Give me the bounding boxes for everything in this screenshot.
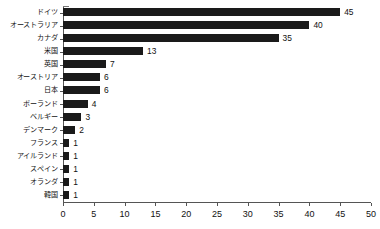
bar: [63, 34, 279, 42]
bar-chart: ドイツオーストラリアカナダ米国英国オーストリア日本ポーランドベルギーデンマークフ…: [0, 0, 380, 229]
category-label: スペイン: [30, 164, 58, 175]
category-label: ベルギー: [30, 112, 58, 123]
bar: [63, 152, 69, 160]
x-axis-tick: [371, 203, 372, 206]
bar-value-label: 1: [73, 177, 78, 188]
category-label: カナダ: [37, 33, 58, 44]
category-label: オーストリア: [17, 72, 58, 83]
category-label: デンマーク: [23, 125, 58, 136]
bar-row: 7: [63, 59, 371, 70]
bar-row: 1: [63, 151, 371, 162]
x-axis-tick-label: 50: [356, 208, 380, 220]
x-axis-tick-label: 5: [79, 208, 109, 220]
bar-value-label: 1: [73, 138, 78, 149]
bar-row: 13: [63, 46, 371, 57]
bar-value-label: 3: [85, 112, 90, 123]
bar-value-label: 1: [73, 190, 78, 201]
category-label: 英国: [44, 59, 58, 70]
bar-row: 1: [63, 164, 371, 175]
bar-row: 1: [63, 190, 371, 201]
bar-value-label: 1: [73, 164, 78, 175]
bar-row: 45: [63, 7, 371, 18]
bar: [63, 47, 143, 55]
bar: [63, 165, 69, 173]
x-axis-tick-label: 20: [171, 208, 201, 220]
bar-row: 6: [63, 85, 371, 96]
x-axis-tick: [155, 203, 156, 206]
bar-row: 40: [63, 20, 371, 31]
category-label: アイルランド: [17, 151, 58, 162]
bar-row: 3: [63, 112, 371, 123]
bar-row: 6: [63, 72, 371, 83]
x-axis-tick: [248, 203, 249, 206]
bar-value-label: 35: [283, 33, 292, 44]
category-label: 韓国: [44, 190, 58, 201]
x-axis-tick: [63, 203, 64, 206]
plot-area: 4540351376643211111: [63, 6, 371, 202]
category-label: オーストラリア: [10, 20, 58, 31]
bar: [63, 139, 69, 147]
category-label: ドイツ: [37, 7, 58, 18]
x-axis-tick-label: 25: [202, 208, 232, 220]
bar-row: 1: [63, 138, 371, 149]
bar: [63, 73, 100, 81]
x-axis-tick-label: 40: [294, 208, 324, 220]
bar-row: 35: [63, 33, 371, 44]
x-axis-tick-label: 30: [233, 208, 263, 220]
bar-value-label: 6: [104, 85, 109, 96]
x-axis-tick-label: 45: [325, 208, 355, 220]
bar: [63, 60, 106, 68]
category-label: 日本: [44, 85, 58, 96]
x-axis-tick-label: 0: [48, 208, 78, 220]
bar: [63, 86, 100, 94]
x-axis-tick-label: 15: [140, 208, 170, 220]
x-axis-tick: [125, 203, 126, 206]
bar-row: 2: [63, 125, 371, 136]
x-axis-tick: [309, 203, 310, 206]
x-axis-tick: [94, 203, 95, 206]
bar: [63, 100, 88, 108]
category-label: 米国: [44, 46, 58, 57]
bar-value-label: 13: [147, 46, 156, 57]
bar: [63, 113, 81, 121]
bar-value-label: 4: [92, 99, 97, 110]
category-axis-labels: ドイツオーストラリアカナダ米国英国オーストリア日本ポーランドベルギーデンマークフ…: [0, 6, 60, 202]
bar-value-label: 40: [313, 20, 322, 31]
bar: [63, 191, 69, 199]
x-axis-tick-label: 35: [264, 208, 294, 220]
bar-value-label: 45: [344, 7, 353, 18]
bar: [63, 178, 69, 186]
x-axis-tick: [217, 203, 218, 206]
bar-value-label: 1: [73, 151, 78, 162]
x-axis-tick: [340, 203, 341, 206]
bar-value-label: 6: [104, 72, 109, 83]
category-label: オランダ: [30, 177, 58, 188]
x-axis-tick: [279, 203, 280, 206]
x-axis-tick: [186, 203, 187, 206]
category-label: ポーランド: [23, 99, 58, 110]
bar-value-label: 7: [110, 59, 115, 70]
category-label: フランス: [30, 138, 58, 149]
bar: [63, 8, 340, 16]
bar: [63, 126, 75, 134]
bar-value-label: 2: [79, 125, 84, 136]
bar-row: 1: [63, 177, 371, 188]
bar: [63, 21, 309, 29]
x-axis-tick-label: 10: [110, 208, 140, 220]
bar-row: 4: [63, 99, 371, 110]
